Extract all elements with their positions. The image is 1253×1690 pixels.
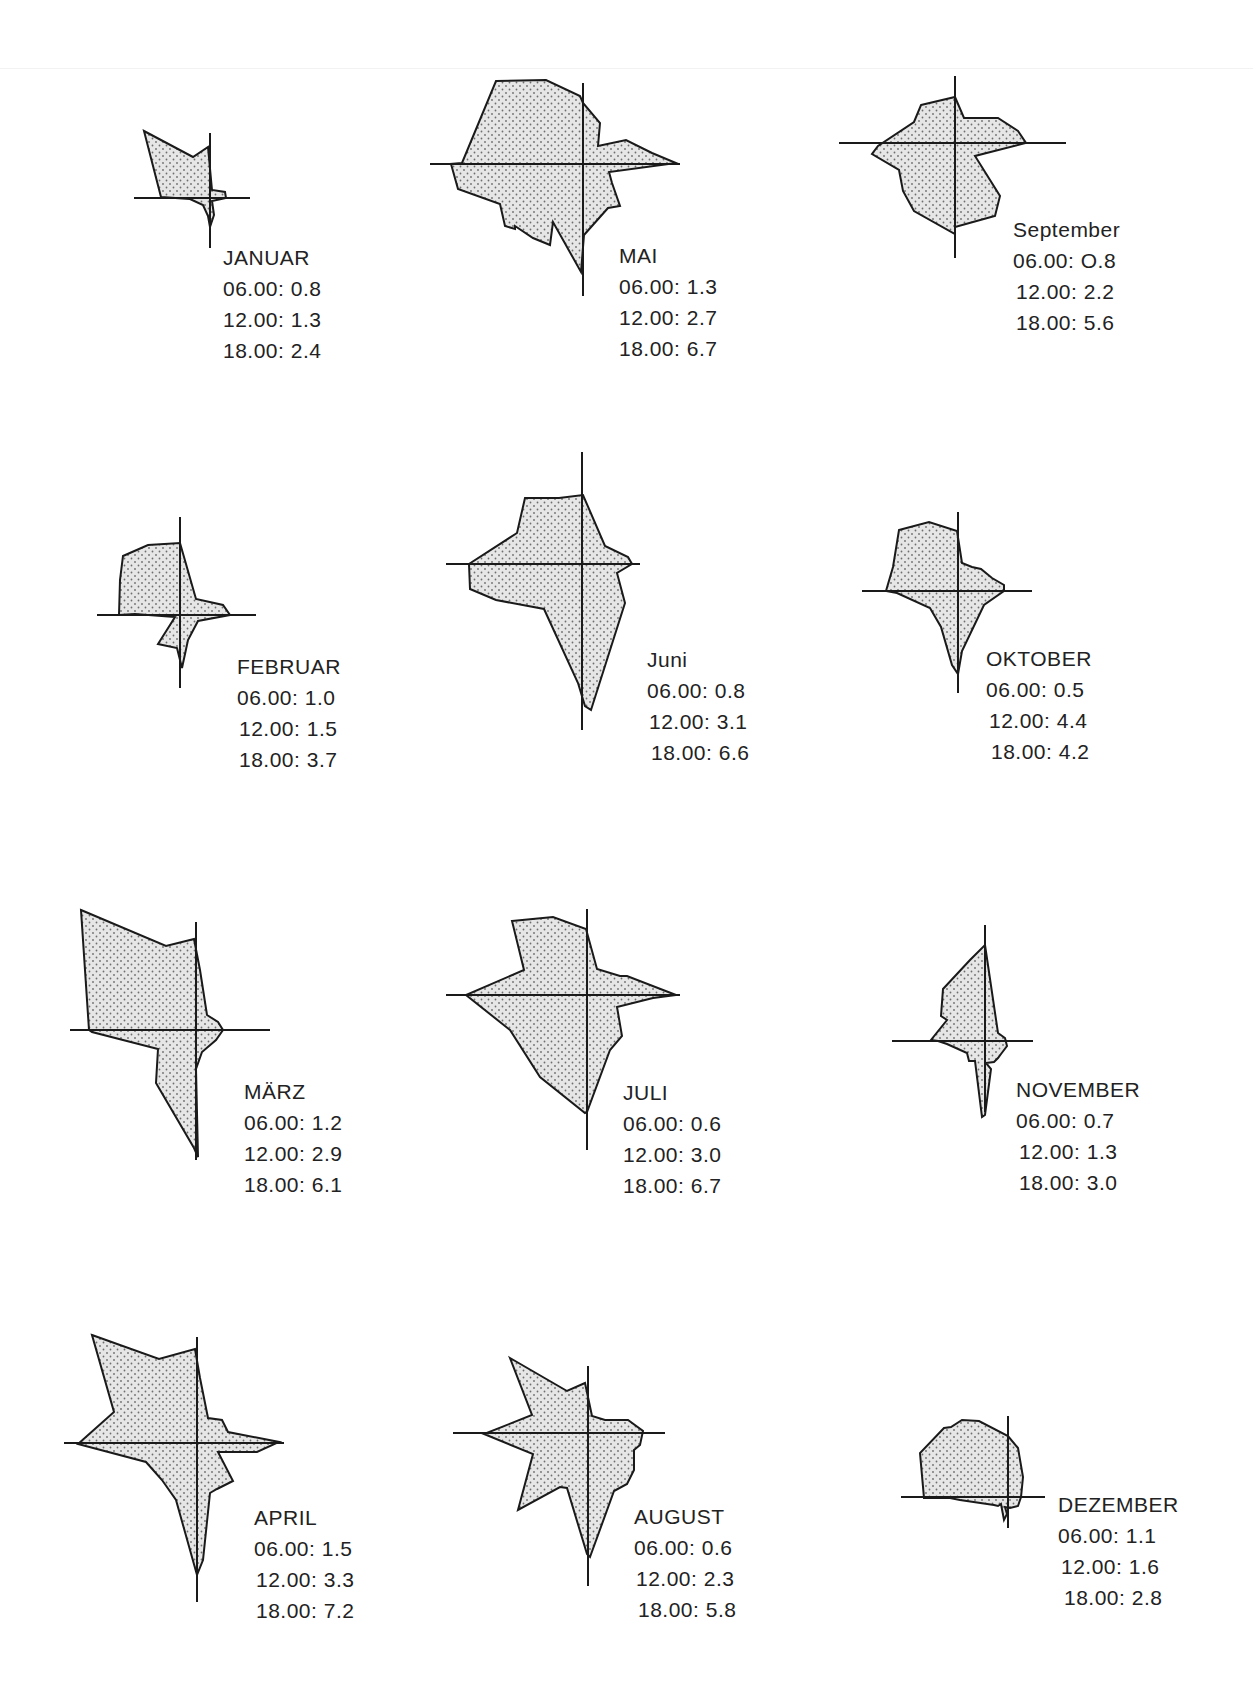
speed-1200: 12.00: 2.7	[619, 302, 717, 333]
speed-1200: 12.00: 3.0	[623, 1139, 721, 1170]
wind-rose-dezember	[901, 1416, 1045, 1528]
speed-0600: 06.00: 0.6	[634, 1532, 736, 1563]
wind-rose-april	[64, 1335, 284, 1602]
month-title: MAI	[619, 240, 717, 271]
panel-label-oktober: OKTOBER 06.00: 0.5 12.00: 4.4 18.00: 4.2	[986, 643, 1092, 767]
speed-1800: 18.00: 2.8	[1058, 1582, 1179, 1613]
month-title: FEBRUAR	[237, 651, 341, 682]
speed-0600: 06.00: 1.0	[237, 682, 341, 713]
speed-0600: 06.00: 1.3	[619, 271, 717, 302]
speed-1200: 12.00: 4.4	[986, 705, 1092, 736]
month-title: JULI	[623, 1077, 721, 1108]
month-title: MÄRZ	[244, 1076, 342, 1107]
month-title: AUGUST	[634, 1501, 736, 1532]
speed-0600: 06.00: 0.5	[986, 674, 1092, 705]
panel-label-mai: MAI 06.00: 1.3 12.00: 2.7 18.00: 6.7	[619, 240, 717, 364]
speed-0600: 06.00: 0.8	[223, 273, 321, 304]
panel-label-februar: FEBRUAR 06.00: 1.0 12.00: 1.5 18.00: 3.7	[237, 651, 341, 775]
speed-0600: 06.00: 1.2	[244, 1107, 342, 1138]
speed-0600: 06.00: 1.1	[1058, 1520, 1179, 1551]
month-title: JANUAR	[223, 242, 321, 273]
speed-1800: 18.00: 5.8	[634, 1594, 736, 1625]
speed-1200: 12.00: 3.1	[647, 706, 749, 737]
panel-label-november: NOVEMBER 06.00: 0.7 12.00: 1.3 18.00: 3.…	[1016, 1074, 1140, 1198]
speed-1800: 18.00: 5.6	[1013, 307, 1120, 338]
speed-0600: 06.00: 1.5	[254, 1533, 354, 1564]
wind-rose-juni	[446, 452, 640, 730]
wind-rose-maerz	[70, 910, 270, 1160]
speed-1800: 18.00: 3.0	[1016, 1167, 1140, 1198]
wind-rose-februar	[97, 517, 256, 688]
speed-1800: 18.00: 7.2	[254, 1595, 354, 1626]
panel-label-juli: JULI 06.00: 0.6 12.00: 3.0 18.00: 6.7	[623, 1077, 721, 1201]
wind-rose-november	[892, 925, 1033, 1117]
speed-1200: 12.00: 2.3	[634, 1563, 736, 1594]
panel-label-maerz: MÄRZ 06.00: 1.2 12.00: 2.9 18.00: 6.1	[244, 1076, 342, 1200]
speed-1200: 12.00: 1.5	[237, 713, 341, 744]
speed-1800: 18.00: 6.7	[623, 1170, 721, 1201]
speed-1200: 12.00: 3.3	[254, 1564, 354, 1595]
speed-1200: 12.00: 2.9	[244, 1138, 342, 1169]
speed-1200: 12.00: 1.3	[223, 304, 321, 335]
speed-1800: 18.00: 4.2	[986, 736, 1092, 767]
speed-0600: 06.00: O.8	[1013, 245, 1120, 276]
panel-label-september: September 06.00: O.8 12.00: 2.2 18.00: 5…	[1013, 214, 1120, 338]
speed-1800: 18.00: 6.7	[619, 333, 717, 364]
speed-0600: 06.00: 0.7	[1016, 1105, 1140, 1136]
month-title: OKTOBER	[986, 643, 1092, 674]
month-title: NOVEMBER	[1016, 1074, 1140, 1105]
speed-1200: 12.00: 1.6	[1058, 1551, 1179, 1582]
speed-1200: 12.00: 2.2	[1013, 276, 1120, 307]
speed-0600: 06.00: 0.8	[647, 675, 749, 706]
panel-label-april: APRIL 06.00: 1.5 12.00: 3.3 18.00: 7.2	[254, 1502, 354, 1626]
speed-1800: 18.00: 2.4	[223, 335, 321, 366]
panel-label-dezember: DEZEMBER 06.00: 1.1 12.00: 1.6 18.00: 2.…	[1058, 1489, 1179, 1613]
speed-1800: 18.00: 6.6	[647, 737, 749, 768]
month-title: September	[1013, 214, 1120, 245]
panel-label-august: AUGUST 06.00: 0.6 12.00: 2.3 18.00: 5.8	[634, 1501, 736, 1625]
month-title: APRIL	[254, 1502, 354, 1533]
speed-1200: 12.00: 1.3	[1016, 1136, 1140, 1167]
speed-0600: 06.00: 0.6	[623, 1108, 721, 1139]
month-title: DEZEMBER	[1058, 1489, 1179, 1520]
month-title: Juni	[647, 644, 749, 675]
speed-1800: 18.00: 6.1	[244, 1169, 342, 1200]
panel-label-januar: JANUAR 06.00: 0.8 12.00: 1.3 18.00: 2.4	[223, 242, 321, 366]
wind-rose-januar	[134, 131, 250, 248]
speed-1800: 18.00: 3.7	[237, 744, 341, 775]
panel-label-juni: Juni 06.00: 0.8 12.00: 3.1 18.00: 6.6	[647, 644, 749, 768]
